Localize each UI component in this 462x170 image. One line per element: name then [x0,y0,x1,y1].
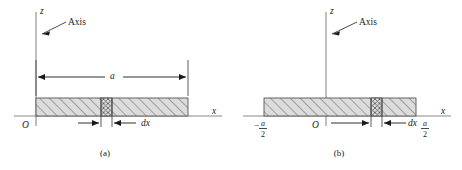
left-end-minus-sign: − [254,120,259,130]
panel-b: z Axis x O dx − a 2 a 2 [231,0,462,170]
right-end-numerator: a [423,119,427,128]
origin-label-b: O [312,120,319,130]
dimension-label-a: a [110,71,115,81]
dx-label-a: dx [141,118,151,128]
z-axis-label-b: z [329,6,334,16]
axis-callout-label-b: Axis [359,17,377,27]
axis-callout-label-a: Axis [68,17,86,27]
z-axis-label-a: z [39,6,44,16]
axis-callout-leader-b [332,22,357,34]
caption-b: (b) [334,148,345,158]
left-end-numerator: a [261,119,265,128]
dx-element-b [371,98,382,116]
origin-label-a: O [22,120,29,130]
panel-a: z Axis a x O dx (a) [0,0,231,170]
right-end-label-b: a 2 [421,119,429,139]
left-end-label-b: − a 2 [254,119,267,139]
x-axis-label-b: x [440,106,446,116]
x-axis-label-a: x [211,106,217,116]
axis-callout-leader-a [42,22,66,34]
left-end-denominator: 2 [261,130,265,139]
rod-slab-b [264,98,416,116]
dx-element-a [101,98,112,116]
figure-root: z Axis a x O dx (a) [0,0,462,170]
right-end-denominator: 2 [423,130,427,139]
caption-a: (a) [100,148,110,158]
dx-label-b: dx [408,118,418,128]
